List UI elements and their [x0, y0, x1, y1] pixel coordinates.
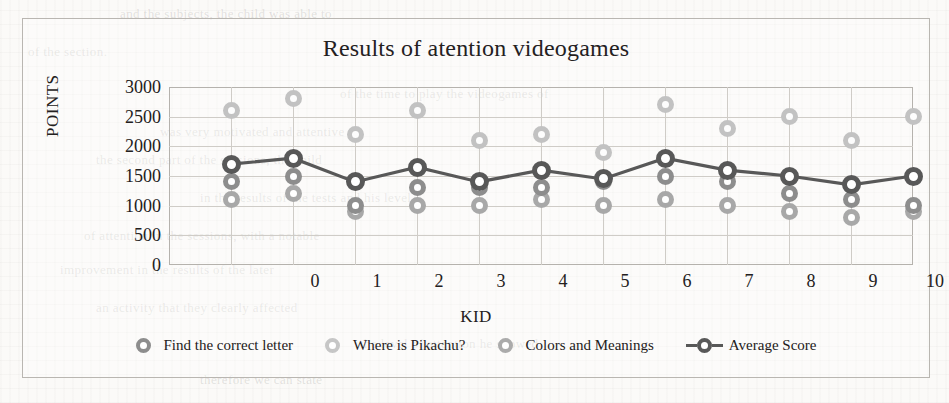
legend-circle-marker-icon [498, 338, 513, 353]
data-point [595, 144, 612, 161]
data-point [781, 203, 798, 220]
data-point [843, 132, 860, 149]
data-point [409, 179, 426, 196]
legend-label: Average Score [729, 337, 817, 354]
legend-item[interactable]: Average Score [686, 337, 817, 354]
data-point [532, 161, 551, 180]
data-point [780, 167, 799, 186]
data-point [719, 197, 736, 214]
x-tick-label: 9 [869, 271, 878, 292]
y-tick-label: 3000 [125, 77, 161, 98]
data-point [905, 197, 922, 214]
data-point [595, 197, 612, 214]
x-axis-label: KID [23, 307, 929, 327]
x-tick-label: 8 [807, 271, 816, 292]
data-point [223, 102, 240, 119]
data-point [781, 185, 798, 202]
data-point [285, 90, 302, 107]
data-point [533, 126, 550, 143]
x-tick-label: 7 [745, 271, 754, 292]
y-tick-label: 2000 [125, 136, 161, 157]
x-tick-label: 6 [683, 271, 692, 292]
data-point [471, 197, 488, 214]
data-point [409, 102, 426, 119]
y-tick-label: 2500 [125, 106, 161, 127]
data-point [223, 191, 240, 208]
x-tick-label: 4 [559, 271, 568, 292]
data-point [347, 126, 364, 143]
data-point [470, 172, 489, 191]
x-tick-label: 3 [497, 271, 506, 292]
data-point [781, 108, 798, 125]
data-point [656, 149, 675, 168]
data-point [284, 149, 303, 168]
plot-area [169, 87, 913, 265]
legend-line-marker-icon [686, 338, 723, 353]
y-tick-label: 0 [152, 255, 161, 276]
data-point [346, 172, 365, 191]
data-point [533, 179, 550, 196]
legend-label: Colors and Meanings [526, 337, 654, 354]
data-point [657, 191, 674, 208]
y-tick-label: 500 [134, 225, 161, 246]
data-point [905, 108, 922, 125]
x-tick-label: 10 [926, 271, 944, 292]
data-point [842, 175, 861, 194]
legend-label: Find the correct letter [164, 337, 294, 354]
legend-item[interactable]: Find the correct letter [136, 337, 294, 354]
y-tick-label: 1000 [125, 195, 161, 216]
data-point [719, 120, 736, 137]
data-point [657, 168, 674, 185]
data-point [718, 161, 737, 180]
legend-label: Where is Pikachu? [353, 337, 465, 354]
data-point [657, 96, 674, 113]
x-tick-label: 1 [373, 271, 382, 292]
data-point [904, 167, 923, 186]
y-axis-label: POINTS [43, 74, 63, 137]
data-point [471, 132, 488, 149]
data-point [347, 197, 364, 214]
data-point [409, 197, 426, 214]
legend-circle-marker-icon [325, 338, 340, 353]
x-tick-label: 2 [435, 271, 444, 292]
chart-legend: Find the correct letterWhere is Pikachu?… [23, 337, 929, 354]
x-tick-label: 0 [311, 271, 320, 292]
data-point [223, 173, 240, 190]
chart-container: Results of atention videogames POINTS KI… [22, 18, 930, 378]
data-point [285, 185, 302, 202]
data-point [594, 169, 613, 188]
data-point [285, 168, 302, 185]
x-tick-label: 5 [621, 271, 630, 292]
legend-item[interactable]: Colors and Meanings [498, 337, 654, 354]
y-axis-tick-labels: 050010001500200025003000 [81, 87, 161, 265]
data-point [843, 209, 860, 226]
legend-circle-marker-icon [136, 338, 151, 353]
legend-item[interactable]: Where is Pikachu? [325, 337, 465, 354]
data-point [408, 158, 427, 177]
chart-title: Results of atention videogames [23, 35, 929, 62]
data-point [222, 155, 241, 174]
y-tick-label: 1500 [125, 166, 161, 187]
